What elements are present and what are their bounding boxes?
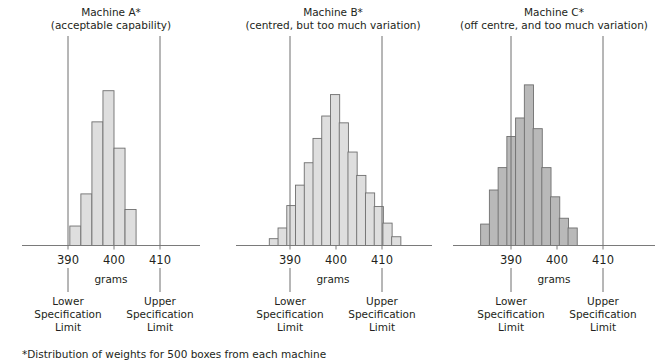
histogram-bar — [516, 118, 525, 246]
histogram-bar — [296, 185, 305, 245]
panel-a-plot: 390400410 grams LowerSpecificationLimit … — [0, 0, 222, 345]
histogram-bar — [287, 206, 296, 246]
histogram-bar — [322, 116, 331, 245]
lower-spec-caption-line1: Lower — [495, 295, 527, 307]
lower-spec-caption-line2: Specification — [256, 308, 323, 320]
panel-b-svg: 390400410 grams LowerSpecificationLimit … — [222, 0, 444, 345]
x-tick-label: 410 — [371, 253, 393, 267]
panel-c-axis-label: grams — [537, 273, 570, 285]
histogram-bar — [313, 138, 322, 245]
histogram-bar — [524, 85, 533, 246]
x-tick-label: 390 — [279, 253, 301, 267]
histogram-bar — [92, 122, 103, 246]
x-tick-label: 400 — [103, 253, 125, 267]
histogram-bar — [348, 152, 357, 245]
x-tick-label: 400 — [325, 253, 347, 267]
panel-machine-a: Machine A* (acceptable capability) 39040… — [0, 0, 222, 345]
panel-a-upper-spec-label: UpperSpecificationLimit — [126, 295, 193, 333]
figure-footnote: *Distribution of weights for 500 boxes f… — [22, 348, 326, 360]
panel-c-plot: 390400410 grams LowerSpecificationLimit … — [443, 0, 665, 345]
panel-a-tick-labels: 390400410 — [57, 246, 171, 267]
histogram-bar — [392, 237, 401, 246]
panel-machine-b: Machine B* (centred, but too much variat… — [222, 0, 444, 345]
x-tick-label: 390 — [57, 253, 79, 267]
panel-c-bars — [481, 85, 578, 246]
histogram-bar — [357, 175, 366, 245]
histogram-bar — [383, 223, 392, 245]
histogram-bar — [551, 197, 560, 246]
panel-c-tick-labels: 390400410 — [500, 246, 614, 267]
histogram-bar — [330, 95, 339, 246]
histogram-bar — [304, 163, 313, 246]
histogram-bar — [103, 91, 114, 246]
panel-b-plot: 390400410 grams LowerSpecificationLimit … — [222, 0, 444, 345]
panel-b-bars — [269, 95, 401, 246]
panel-c-lower-spec-label: LowerSpecificationLimit — [477, 295, 544, 333]
histogram-bar — [542, 168, 551, 246]
upper-spec-caption-line1: Upper — [144, 295, 176, 307]
panel-b-tick-labels: 390400410 — [279, 246, 393, 267]
lower-spec-caption-line3: Limit — [55, 321, 81, 333]
upper-spec-caption-line3: Limit — [147, 321, 173, 333]
histogram-bar — [114, 148, 125, 245]
upper-spec-caption-line2: Specification — [348, 308, 415, 320]
histogram-bar — [278, 228, 287, 246]
histogram-bar — [481, 224, 490, 245]
upper-spec-caption-line3: Limit — [590, 321, 616, 333]
panel-a-bars — [70, 91, 136, 246]
lower-spec-caption-line2: Specification — [477, 308, 544, 320]
upper-spec-caption-line1: Upper — [366, 295, 398, 307]
panel-b-lower-spec-label: LowerSpecificationLimit — [256, 295, 323, 333]
panel-c-svg: 390400410 grams LowerSpecificationLimit … — [443, 0, 665, 345]
lower-spec-caption-line1: Lower — [52, 295, 84, 307]
histogram-bar — [70, 226, 81, 245]
upper-spec-caption-line3: Limit — [369, 321, 395, 333]
x-tick-label: 410 — [149, 253, 171, 267]
capability-histograms-figure: Machine A* (acceptable capability) 39040… — [0, 0, 665, 364]
panel-a-svg: 390400410 grams LowerSpecificationLimit … — [0, 0, 222, 345]
panel-machine-c: Machine C* (off centre, and too much var… — [443, 0, 665, 345]
x-tick-label: 400 — [546, 253, 568, 267]
histogram-bar — [489, 190, 498, 245]
x-tick-label: 390 — [500, 253, 522, 267]
panel-b-upper-spec-label: UpperSpecificationLimit — [348, 295, 415, 333]
panel-a-axis-label: grams — [94, 273, 127, 285]
histogram-bar — [533, 129, 542, 246]
lower-spec-caption-line2: Specification — [34, 308, 101, 320]
histogram-bar — [559, 218, 568, 245]
histogram-bar — [81, 194, 92, 246]
panel-c-upper-spec-label: UpperSpecificationLimit — [569, 295, 636, 333]
lower-spec-caption-line1: Lower — [274, 295, 306, 307]
upper-spec-caption-line1: Upper — [587, 295, 619, 307]
panel-a-lower-spec-label: LowerSpecificationLimit — [34, 295, 101, 333]
histogram-bar — [498, 168, 507, 246]
x-tick-label: 410 — [592, 253, 614, 267]
upper-spec-caption-line2: Specification — [569, 308, 636, 320]
histogram-bar — [339, 123, 348, 246]
lower-spec-caption-line3: Limit — [498, 321, 524, 333]
histogram-bar — [125, 209, 136, 245]
histogram-bar — [568, 228, 577, 246]
histogram-bar — [365, 193, 374, 246]
lower-spec-caption-line3: Limit — [277, 321, 303, 333]
panel-b-axis-label: grams — [316, 273, 349, 285]
histogram-bar — [269, 239, 278, 246]
upper-spec-caption-line2: Specification — [126, 308, 193, 320]
